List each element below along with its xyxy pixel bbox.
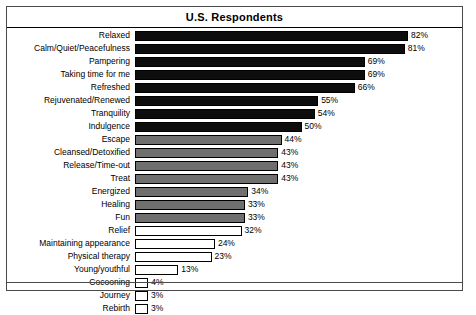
bar <box>135 31 408 41</box>
bar-row: Tranquility54% <box>7 107 462 120</box>
bar-value-label: 34% <box>251 187 268 196</box>
bar-value-label: 69% <box>368 70 385 79</box>
bar-track: 43% <box>135 146 462 159</box>
bar <box>135 148 278 158</box>
bar <box>135 200 245 210</box>
bar-rows: Relaxed82%Calm/Quiet/Peacefulness81%Pamp… <box>7 29 462 315</box>
bar <box>135 252 212 262</box>
bar-track: 3% <box>135 289 462 302</box>
bar-category-label: Rebirth <box>7 304 135 313</box>
bar-track: 33% <box>135 198 462 211</box>
bar <box>135 239 215 249</box>
bar-category-label: Fun <box>7 213 135 222</box>
bar-category-label: Taking time for me <box>7 70 135 79</box>
chart-title: U.S. Respondents <box>7 11 462 23</box>
bar-track: 50% <box>135 120 462 133</box>
bar-category-label: Treat <box>7 174 135 183</box>
bar-value-label: 55% <box>321 96 338 105</box>
bar-value-label: 54% <box>318 109 335 118</box>
bar <box>135 135 282 145</box>
bar-row: Refreshed66% <box>7 81 462 94</box>
bar-value-label: 23% <box>215 252 232 261</box>
bar-category-label: Maintaining appearance <box>7 239 135 248</box>
bar-row: Treat43% <box>7 172 462 185</box>
bar-category-label: Tranquility <box>7 109 135 118</box>
bar-row: Taking time for me69% <box>7 68 462 81</box>
bar-row: Healing33% <box>7 198 462 211</box>
bar-row: Physical therapy23% <box>7 250 462 263</box>
bar-category-label: Refreshed <box>7 83 135 92</box>
bar-value-label: 33% <box>248 213 265 222</box>
bar-value-label: 3% <box>151 304 163 313</box>
bar-category-label: Cleansed/Detoxified <box>7 148 135 157</box>
bar-category-label: Pampering <box>7 57 135 66</box>
bar-row: Energized34% <box>7 185 462 198</box>
bar <box>135 57 365 67</box>
bar-track: 32% <box>135 224 462 237</box>
bar-value-label: 32% <box>245 226 262 235</box>
bar-category-label: Young/youthful <box>7 265 135 274</box>
bar-track: 55% <box>135 94 462 107</box>
bar-row: Escape44% <box>7 133 462 146</box>
bar-row: Rebirth3% <box>7 302 462 315</box>
bar-category-label: Energized <box>7 187 135 196</box>
bar <box>135 70 365 80</box>
bar <box>135 96 318 106</box>
bar <box>135 161 278 171</box>
bar-category-label: Physical therapy <box>7 252 135 261</box>
bar <box>135 109 315 119</box>
bar-category-label: Indulgence <box>7 122 135 131</box>
bar-row: Fun33% <box>7 211 462 224</box>
bar-category-label: Release/Time-out <box>7 161 135 170</box>
bar-row: Calm/Quiet/Peacefulness81% <box>7 42 462 55</box>
bar-value-label: 43% <box>281 161 298 170</box>
bar-track: 33% <box>135 211 462 224</box>
bar-row: Young/youthful13% <box>7 263 462 276</box>
bar-row: Cleansed/Detoxified43% <box>7 146 462 159</box>
bar-track: 44% <box>135 133 462 146</box>
bar <box>135 187 248 197</box>
bar-value-label: 24% <box>218 239 235 248</box>
bar-value-label: 43% <box>281 174 298 183</box>
bar-value-label: 81% <box>408 44 425 53</box>
bar-row: Relaxed82% <box>7 29 462 42</box>
bar-value-label: 66% <box>358 83 375 92</box>
bar-category-label: Escape <box>7 135 135 144</box>
bar-category-label: Relief <box>7 226 135 235</box>
bar-track: 66% <box>135 81 462 94</box>
bar-track: 43% <box>135 159 462 172</box>
bar-row: Journey3% <box>7 289 462 302</box>
bar-row: Relief32% <box>7 224 462 237</box>
bar-value-label: 69% <box>368 57 385 66</box>
bar-track: 81% <box>135 42 462 55</box>
bar <box>135 265 178 275</box>
plot-top-border <box>7 27 462 28</box>
bar <box>135 174 278 184</box>
bar <box>135 291 148 301</box>
bar-track: 69% <box>135 55 462 68</box>
bar-track: 3% <box>135 302 462 315</box>
bar-value-label: 50% <box>305 122 322 131</box>
bar <box>135 213 245 223</box>
bar-track: 69% <box>135 68 462 81</box>
bar-track: 24% <box>135 237 462 250</box>
chart-frame: U.S. Respondents Relaxed82%Calm/Quiet/Pe… <box>6 6 463 291</box>
bar-row: Pampering69% <box>7 55 462 68</box>
bar-track: 23% <box>135 250 462 263</box>
bar-value-label: 43% <box>281 148 298 157</box>
bar <box>135 304 148 314</box>
bar-row: Release/Time-out43% <box>7 159 462 172</box>
bar-row: Maintaining appearance24% <box>7 237 462 250</box>
bar-value-label: 82% <box>411 31 428 40</box>
bar <box>135 122 302 132</box>
bar <box>135 83 355 93</box>
bar-track: 54% <box>135 107 462 120</box>
bar-category-label: Calm/Quiet/Peacefulness <box>7 44 135 53</box>
bar-value-label: 44% <box>285 135 302 144</box>
bar-value-label: 3% <box>151 291 163 300</box>
plot-bottom-border <box>7 282 462 283</box>
bar-row: Rejuvenated/Renewed55% <box>7 94 462 107</box>
bar <box>135 226 242 236</box>
bar-category-label: Healing <box>7 200 135 209</box>
bar-track: 82% <box>135 29 462 42</box>
